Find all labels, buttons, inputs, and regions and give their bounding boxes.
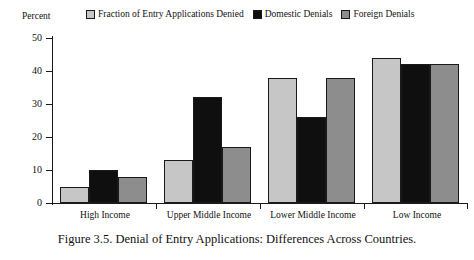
figure-container: Percent Fraction of Entry Applications D… [0,0,474,260]
bar-group-high-income [60,170,147,203]
y-tick-mark-40 [46,71,53,72]
bar-lower-middle-income-foreign [326,78,355,203]
legend-label-domestic: Domestic Denials [265,9,333,19]
y-tick-label-20: 20 [14,132,42,142]
legend-entry-fraction: Fraction of Entry Applications Denied [86,9,244,19]
chart-legend: Fraction of Entry Applications Denied Do… [86,9,414,19]
bar-group-upper-middle-income [164,97,251,203]
bar-low-income-domestic [401,64,430,203]
legend-swatch-medium-gray-icon [341,10,350,19]
y-tick-mark-10 [46,170,53,171]
figure-caption: Figure 3.5. Denial of Entry Applications… [0,232,474,247]
x-tick-mark-4 [467,203,468,209]
y-tick-label-40: 40 [14,66,42,76]
bar-lower-middle-income-domestic [297,117,326,203]
x-category-label-low-income: Low Income [393,210,441,220]
y-tick-label-0: 0 [14,198,42,208]
legend-swatch-black-icon [253,10,262,19]
y-tick-mark-20 [46,137,53,138]
bar-upper-middle-income-fraction [164,160,193,203]
bar-group-low-income [372,58,459,203]
y-tick-label-50: 50 [14,33,42,43]
legend-entry-domestic: Domestic Denials [253,9,333,19]
bar-lower-middle-income-fraction [268,78,297,203]
y-tick-label-30: 30 [14,99,42,109]
x-tick-mark-3 [364,203,365,209]
bar-high-income-foreign [118,177,147,203]
bar-low-income-fraction [372,58,401,203]
bar-upper-middle-income-domestic [193,97,222,203]
x-category-label-high-income: High Income [80,210,130,220]
bar-high-income-domestic [89,170,118,203]
x-tick-mark-1 [156,203,157,209]
legend-label-fraction: Fraction of Entry Applications Denied [98,9,244,19]
y-tick-mark-50 [46,38,53,39]
legend-swatch-light-gray-icon [86,10,95,19]
plot-area [53,38,468,203]
bar-group-lower-middle-income [268,78,355,203]
x-category-label-lower-middle-income: Lower Middle Income [270,210,355,220]
y-tick-mark-30 [46,104,53,105]
legend-entry-foreign: Foreign Denials [341,9,414,19]
bar-high-income-fraction [60,187,89,204]
y-axis-title: Percent [22,11,51,21]
y-tick-label-10: 10 [14,165,42,175]
bar-low-income-foreign [430,64,459,203]
bar-upper-middle-income-foreign [222,147,251,203]
legend-label-foreign: Foreign Denials [353,9,414,19]
y-tick-mark-0 [46,203,53,204]
x-tick-mark-2 [260,203,261,209]
x-category-label-upper-middle-income: Upper Middle Income [167,210,251,220]
